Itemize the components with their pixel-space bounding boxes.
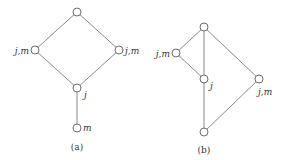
edge-a-top-right xyxy=(77,12,119,50)
diagram-b: j,m j j,m (b) xyxy=(154,23,272,155)
label-b-left: j,m xyxy=(154,49,170,59)
lattice-diagrams: j,m j,m j m (a) j,m j j,m (b) xyxy=(0,0,284,160)
node-b-mid xyxy=(200,75,208,83)
caption-a: (a) xyxy=(71,142,83,152)
caption-b: (b) xyxy=(198,145,211,155)
edge-a-right-mid xyxy=(77,50,119,88)
label-a-bottom: m xyxy=(83,123,92,133)
label-b-mid: j xyxy=(208,81,213,91)
node-a-top xyxy=(73,8,81,16)
edge-b-top-left xyxy=(176,27,204,53)
label-b-right: j,m xyxy=(256,87,272,97)
node-a-left xyxy=(31,46,39,54)
node-b-bottom xyxy=(200,128,208,136)
node-a-right xyxy=(115,46,123,54)
node-a-mid xyxy=(73,84,81,92)
edge-a-top-left xyxy=(35,12,77,50)
label-a-right: j,m xyxy=(123,46,139,56)
node-b-left xyxy=(172,49,180,57)
label-a-left: j,m xyxy=(13,46,29,56)
diagram-a: j,m j,m j m (a) xyxy=(13,8,139,152)
edge-b-left-mid xyxy=(176,53,204,79)
node-b-top xyxy=(200,23,208,31)
node-a-bottom xyxy=(73,124,81,132)
edge-b-top-right xyxy=(204,27,259,79)
edge-a-left-mid xyxy=(35,50,77,88)
label-a-mid: j xyxy=(82,90,87,100)
node-b-right xyxy=(255,75,263,83)
